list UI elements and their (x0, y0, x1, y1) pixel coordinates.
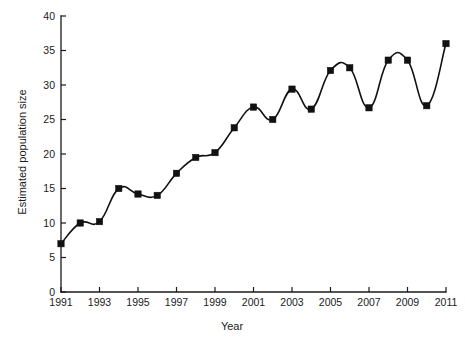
y-tick-label: 20 (43, 148, 55, 160)
data-point-marker (154, 192, 160, 198)
data-point-marker (116, 185, 122, 191)
y-tick-label: 40 (43, 10, 55, 22)
data-point-marker (347, 65, 353, 71)
data-point-marker (366, 105, 372, 111)
x-axis-title: Year (221, 320, 244, 332)
y-tick-label: 30 (43, 79, 55, 91)
data-point-marker (443, 40, 449, 46)
data-point-marker (424, 103, 430, 109)
data-point-marker (308, 106, 314, 112)
data-point-marker (231, 125, 237, 131)
x-tick-label: 2001 (242, 296, 266, 308)
x-tick-label: 1995 (126, 296, 150, 308)
data-point-marker (250, 104, 256, 110)
x-tick-label: 1993 (88, 296, 112, 308)
data-point-marker (385, 57, 391, 63)
data-point-marker (270, 116, 276, 122)
data-point-marker (77, 220, 83, 226)
data-point-marker (193, 154, 199, 160)
data-point-marker (289, 86, 295, 92)
series-markers-estimated-population-size (58, 40, 449, 247)
y-axis-ticks: 0510152025303540 (43, 10, 66, 298)
y-axis-title: Estimated population size (16, 89, 28, 214)
data-point-marker (404, 57, 410, 63)
data-point-marker (58, 241, 64, 247)
data-point-marker (173, 170, 179, 176)
x-tick-label: 2003 (280, 296, 304, 308)
data-point-marker (327, 67, 333, 73)
x-tick-label: 2009 (396, 296, 420, 308)
data-point-marker (212, 149, 218, 155)
y-tick-label: 25 (43, 113, 55, 125)
y-tick-label: 35 (43, 44, 55, 56)
y-tick-label: 15 (43, 182, 55, 194)
data-series-group (58, 40, 449, 247)
y-tick-label: 10 (43, 217, 55, 229)
x-axis-ticks: 1991199319951997199920012003200520072009… (49, 287, 457, 308)
x-tick-label: 1999 (203, 296, 227, 308)
data-point-marker (135, 191, 141, 197)
x-tick-label: 2011 (435, 296, 458, 308)
data-point-marker (96, 218, 102, 224)
y-tick-label: 5 (49, 251, 55, 263)
x-tick-label: 2005 (319, 296, 343, 308)
x-tick-label: 1997 (165, 296, 189, 308)
line-chart-canvas: 0510152025303540 19911993199519971999200… (0, 0, 465, 343)
x-tick-label: 2007 (357, 296, 381, 308)
chart-figure: 0510152025303540 19911993199519971999200… (0, 0, 465, 343)
series-line-estimated-population-size (61, 44, 446, 244)
x-tick-label: 1991 (49, 296, 73, 308)
